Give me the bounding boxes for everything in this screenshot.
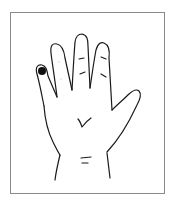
wrist-left-outline xyxy=(55,155,60,180)
palm-crease-mark xyxy=(78,118,91,127)
palm-left-outline xyxy=(44,106,60,155)
marker-dot xyxy=(38,67,46,75)
crease-mark xyxy=(101,74,106,77)
middle-finger-outline xyxy=(72,34,90,90)
wrist-right-outline xyxy=(107,153,110,178)
hand-illustration xyxy=(0,0,179,204)
crease-mark xyxy=(80,72,85,74)
crease-mark xyxy=(101,57,106,59)
thumb-outline xyxy=(107,90,140,152)
crease-mark xyxy=(79,58,84,59)
wrist-crease-mark xyxy=(81,157,91,158)
index-finger-outline xyxy=(90,43,112,110)
